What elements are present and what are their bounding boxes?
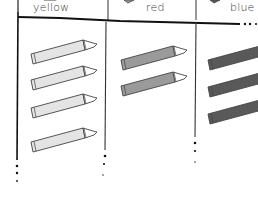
crayon-icon	[31, 40, 97, 64]
crayon-icon	[31, 128, 97, 152]
crayon-icon	[208, 100, 258, 124]
column-divider-middle	[105, 22, 106, 150]
column-divider-left	[17, 12, 18, 160]
crayon-icon	[31, 94, 97, 118]
crayon-icon	[208, 46, 258, 70]
crayon-icon	[121, 72, 187, 96]
crayon-icon	[208, 73, 258, 97]
crayon-icon	[31, 66, 97, 90]
header-divider	[18, 17, 240, 24]
crayon-icon	[121, 46, 187, 70]
column-divider-right	[195, 22, 196, 137]
pictograph-grid	[0, 0, 258, 224]
